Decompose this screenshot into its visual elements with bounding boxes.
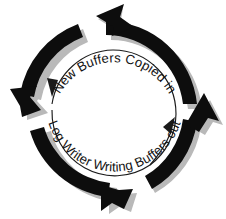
arrow-shadows xyxy=(18,8,223,214)
arrow-lower-right xyxy=(145,93,219,189)
cycle-diagram-canvas: New Buffers Copied in Log Writer Writing… xyxy=(0,0,226,219)
cycle-diagram: New Buffers Copied in Log Writer Writing… xyxy=(0,0,226,219)
